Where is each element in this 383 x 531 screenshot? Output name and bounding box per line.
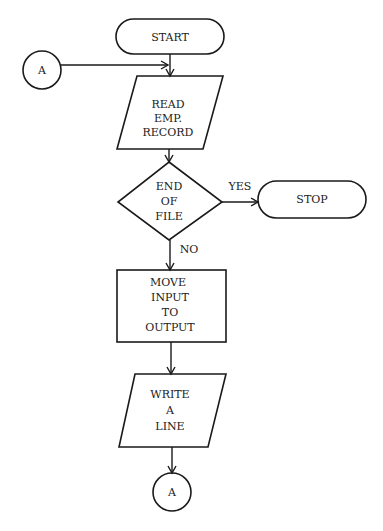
move-line-4: OUTPUT [145, 321, 195, 334]
eof-line-2: OF [161, 195, 178, 208]
yes-label: YES [228, 180, 252, 193]
connector-a-exit: A [153, 473, 191, 511]
read-line-1: READ [151, 98, 184, 111]
eof-line-1: END [156, 180, 183, 193]
stop-label: STOP [296, 193, 328, 206]
end-of-file-decision: END OF FILE [118, 162, 222, 240]
read-line-2: EMP. [154, 112, 182, 125]
start-terminal: START [116, 19, 224, 54]
start-label: START [151, 31, 189, 44]
write-line-3: LINE [155, 420, 184, 433]
write-line-2: A [165, 404, 175, 417]
connector-a-label: A [37, 64, 47, 77]
no-label: NO [180, 243, 199, 256]
stop-terminal: STOP [258, 181, 366, 218]
write-line-io: WRITE A LINE [119, 374, 226, 447]
eof-line-3: FILE [155, 210, 182, 223]
move-input-process: MOVE INPUT TO OUTPUT [117, 270, 226, 342]
move-line-3: TO [162, 306, 178, 319]
write-line-1: WRITE [150, 388, 189, 401]
read-record-io: READ EMP. RECORD [117, 76, 223, 149]
read-line-3: RECORD [143, 126, 194, 139]
connector-a-entry: A [23, 51, 61, 89]
connector-a-exit-label: A [167, 486, 177, 499]
move-line-2: INPUT [151, 291, 189, 304]
move-line-1: MOVE [150, 276, 186, 289]
flowchart: START A READ EMP. RECORD END OF FILE YES… [0, 0, 383, 531]
